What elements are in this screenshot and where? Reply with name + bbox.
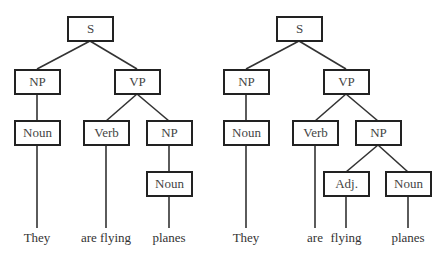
left-verb-node: Verb [83,120,130,146]
left-vp-node: VP [114,69,161,95]
left-word-planes: planes [152,230,185,246]
left-noun2-node: Noun [146,171,193,197]
right-word-planes: planes [391,230,424,246]
right-noun-node: Noun [223,120,270,146]
left-np-node: NP [14,69,61,95]
right-word-are: are [307,230,323,246]
right-noun2-node: Noun [385,171,432,197]
left-word-are-flying: are flying [81,230,131,246]
left-np2-node: NP [146,120,193,146]
right-word-they: They [233,230,260,246]
right-np2-node: NP [355,120,402,146]
right-np-node: NP [223,69,270,95]
right-word-flying: flying [330,230,361,246]
left-noun-node: Noun [14,120,61,146]
right-verb-node: Verb [292,120,339,146]
right-s-node: S [276,16,323,42]
right-adj-node: Adj. [323,171,370,197]
right-vp-node: VP [323,69,370,95]
left-word-they: They [24,230,51,246]
left-s-node: S [67,16,114,42]
